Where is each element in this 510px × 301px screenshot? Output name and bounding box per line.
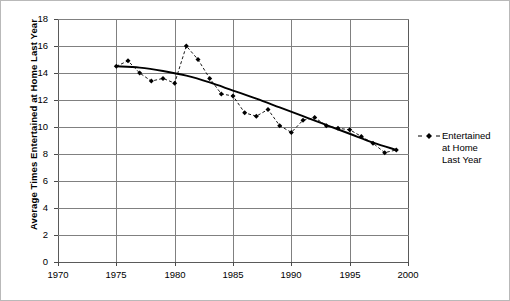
data-point-marker bbox=[161, 76, 166, 81]
y-tick-mark bbox=[54, 235, 58, 236]
y-tick-label: 6 bbox=[26, 176, 48, 186]
data-point-marker bbox=[172, 81, 177, 86]
y-tick-mark bbox=[54, 46, 58, 47]
x-tick-mark bbox=[116, 262, 117, 266]
x-tick-label: 1990 bbox=[271, 269, 311, 280]
data-point-marker bbox=[149, 79, 154, 84]
x-tick-label: 1975 bbox=[96, 269, 136, 280]
data-point-marker bbox=[114, 64, 119, 69]
y-tick-label: 4 bbox=[26, 203, 48, 213]
legend-marker-icon bbox=[418, 130, 440, 142]
y-tick-mark bbox=[54, 208, 58, 209]
y-tick-label: 14 bbox=[26, 68, 48, 78]
data-point-marker bbox=[254, 114, 259, 119]
x-tick-label: 1995 bbox=[330, 269, 370, 280]
data-point-marker bbox=[242, 110, 247, 115]
data-point-marker bbox=[126, 58, 131, 63]
x-tick-mark bbox=[233, 262, 234, 266]
y-tick-mark bbox=[54, 154, 58, 155]
trend-line bbox=[116, 66, 396, 150]
chart-figure: Average Times Entertained at Home Last Y… bbox=[0, 0, 510, 301]
y-tick-mark bbox=[54, 19, 58, 20]
x-tick-label: 1985 bbox=[213, 269, 253, 280]
x-tick-label: 1980 bbox=[155, 269, 195, 280]
y-tick-mark bbox=[54, 127, 58, 128]
y-tick-label: 8 bbox=[26, 149, 48, 159]
x-tick-mark bbox=[58, 262, 59, 266]
y-tick-label: 0 bbox=[26, 257, 48, 267]
x-tick-mark bbox=[291, 262, 292, 266]
data-point-marker bbox=[347, 127, 352, 132]
x-tick-mark bbox=[350, 262, 351, 266]
y-tick-label: 18 bbox=[26, 14, 48, 24]
x-tick-label: 1970 bbox=[38, 269, 78, 280]
data-point-marker bbox=[196, 57, 201, 62]
y-tick-mark bbox=[54, 181, 58, 182]
x-tick-mark bbox=[408, 262, 409, 266]
data-point-marker bbox=[266, 107, 271, 112]
y-tick-mark bbox=[54, 73, 58, 74]
x-tick-mark bbox=[175, 262, 176, 266]
chart-legend: Entertained at Home Last Year bbox=[418, 130, 506, 166]
y-tick-label: 16 bbox=[26, 41, 48, 51]
legend-label: Entertained at Home Last Year bbox=[442, 130, 506, 166]
data-point-marker bbox=[219, 91, 224, 96]
legend-label-line-1: Entertained bbox=[442, 130, 506, 142]
data-point-marker bbox=[277, 123, 282, 128]
y-tick-mark bbox=[54, 100, 58, 101]
series-layer bbox=[58, 19, 409, 263]
data-point-marker bbox=[394, 147, 399, 152]
x-tick-label: 2000 bbox=[388, 269, 428, 280]
y-tick-label: 12 bbox=[26, 95, 48, 105]
legend-label-line-3: Last Year bbox=[442, 154, 506, 166]
y-tick-label: 2 bbox=[26, 230, 48, 240]
data-point-marker bbox=[207, 76, 212, 81]
y-tick-label: 10 bbox=[26, 122, 48, 132]
legend-label-line-2: at Home bbox=[442, 142, 506, 154]
data-point-marker bbox=[231, 93, 236, 98]
